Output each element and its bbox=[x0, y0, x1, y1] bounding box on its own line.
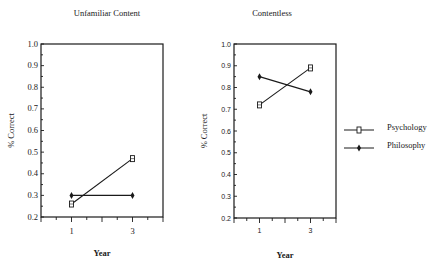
plot-frame bbox=[234, 44, 336, 218]
y-tick-label: 0.3 bbox=[27, 190, 38, 200]
x-tick-label: 1 bbox=[258, 227, 262, 234]
y-tick-label: 0.4 bbox=[27, 168, 38, 178]
legend: PsychologyPhilosophy bbox=[344, 122, 427, 152]
y-tick-label: 0.5 bbox=[221, 149, 231, 156]
y-tick-label: 0.4 bbox=[221, 171, 231, 178]
diamond-marker bbox=[258, 73, 262, 80]
y-axis-label: % Correct bbox=[199, 113, 209, 148]
legend-item-philosophy: Philosophy bbox=[344, 140, 426, 152]
series-philosophy bbox=[258, 73, 313, 95]
y-tick-label: 0.6 bbox=[27, 125, 38, 135]
y-tick-label: 0.7 bbox=[221, 106, 231, 113]
y-tick-label: 0.7 bbox=[27, 103, 38, 113]
y-tick-label: 0.9 bbox=[221, 62, 231, 69]
legend-item-psychology: Psychology bbox=[344, 122, 427, 133]
diamond-marker bbox=[70, 192, 74, 199]
x-axis-label: Year bbox=[277, 250, 294, 260]
y-tick-label: 0.8 bbox=[221, 84, 231, 91]
chart-title: Unfamiliar Content bbox=[74, 8, 141, 18]
y-tick-label: 1.0 bbox=[27, 39, 38, 49]
y-tick-label: 0.3 bbox=[221, 193, 231, 200]
series-psychology bbox=[258, 65, 313, 108]
legend-label: Philosophy bbox=[387, 140, 426, 150]
square-marker-icon bbox=[357, 127, 361, 133]
y-tick-label: 0.8 bbox=[27, 82, 38, 92]
y-tick-label: 0.9 bbox=[27, 60, 38, 70]
x-tick-label: 1 bbox=[69, 226, 73, 236]
diamond-marker bbox=[131, 192, 135, 199]
x-tick-label: 3 bbox=[309, 227, 313, 234]
y-axis: 0.20.30.40.50.60.70.80.91.0 bbox=[221, 41, 237, 222]
plot-frame bbox=[41, 44, 163, 217]
diamond-marker bbox=[309, 88, 313, 95]
chart-panel-2: Contentless0.20.30.40.50.60.70.80.91.0% … bbox=[199, 8, 336, 260]
x-axis: 13 bbox=[234, 218, 336, 234]
x-axis-label: Year bbox=[94, 248, 111, 258]
diamond-marker-icon bbox=[357, 145, 361, 152]
y-tick-label: 0.5 bbox=[27, 147, 38, 157]
legend-label: Psychology bbox=[387, 122, 427, 132]
x-axis: 13 bbox=[41, 217, 163, 236]
y-tick-label: 0.2 bbox=[27, 212, 38, 222]
chart-title: Contentless bbox=[252, 8, 292, 18]
x-tick-label: 3 bbox=[130, 226, 134, 236]
y-tick-label: 0.2 bbox=[221, 215, 231, 222]
y-tick-label: 0.6 bbox=[221, 128, 231, 135]
chart-panel-1: Unfamiliar Content0.20.30.40.50.60.70.80… bbox=[6, 8, 163, 258]
chart-canvas: Unfamiliar Content0.20.30.40.50.60.70.80… bbox=[0, 0, 432, 269]
y-tick-label: 1.0 bbox=[221, 41, 231, 48]
series-psychology bbox=[70, 156, 135, 207]
y-axis-label: % Correct bbox=[6, 113, 16, 148]
